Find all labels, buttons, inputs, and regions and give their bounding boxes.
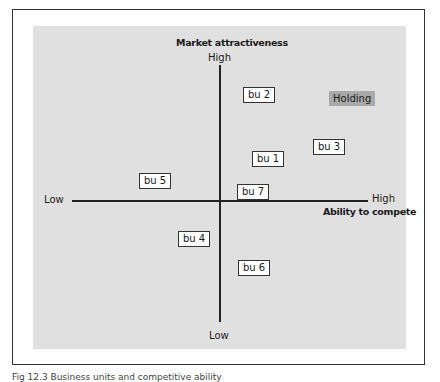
- y-axis-high-label: High: [208, 52, 231, 63]
- y-axis-title: Market attractiveness: [176, 37, 288, 48]
- y-axis-line: [219, 65, 221, 322]
- x-axis-low-label: Low: [44, 194, 64, 205]
- y-axis-low-label: Low: [209, 330, 229, 341]
- bu-7-box: bu 7: [237, 184, 269, 200]
- figure-caption: Fig 12.3 Business units and competitive …: [12, 372, 222, 382]
- bu-3-box: bu 3: [313, 139, 345, 155]
- x-axis-high-label: High: [372, 193, 395, 204]
- bu-1-box: bu 1: [252, 151, 284, 167]
- x-axis-line: [72, 200, 368, 202]
- bu-4-box: bu 4: [178, 231, 210, 247]
- bu-5-box: bu 5: [139, 173, 171, 189]
- holding-box: Holding: [329, 91, 375, 106]
- x-axis-title: Ability to compete: [323, 206, 416, 217]
- bu-2-box: bu 2: [243, 87, 275, 103]
- bu-6-box: bu 6: [238, 260, 270, 276]
